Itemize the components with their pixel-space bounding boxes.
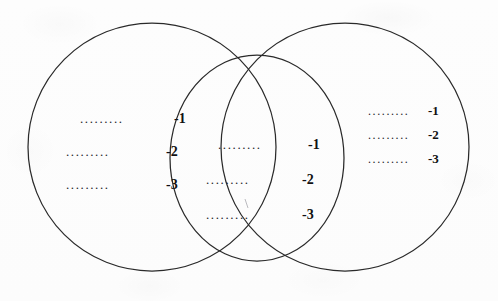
entry-number: -2	[302, 173, 314, 187]
list-item[interactable]: ......... -3	[206, 208, 320, 243]
list-item[interactable]: ......... -2	[368, 128, 439, 152]
entry-number: -3	[166, 178, 178, 192]
list-item[interactable]: ......... -2	[66, 145, 186, 178]
right-set-entries: ......... -1 ......... -2 ......... -3	[368, 104, 439, 176]
entry-number: -1	[308, 138, 320, 152]
dotted-leader: .........	[218, 138, 290, 151]
dotted-leader: .........	[368, 105, 426, 117]
dotted-leader: .........	[66, 145, 144, 158]
entry-number: -3	[428, 152, 439, 165]
dotted-leader: .........	[368, 129, 426, 141]
entry-number: -1	[428, 104, 439, 117]
entry-number: -1	[174, 112, 186, 126]
intersection-set-entries: ......... -1 ......... -2 ......... -3	[206, 138, 320, 243]
entry-number: -2	[166, 145, 178, 159]
dotted-leader: .........	[80, 112, 158, 125]
dotted-leader: .........	[368, 153, 426, 165]
left-set-entries: ......... -1 ......... -2 ......... -3	[66, 112, 186, 211]
entry-number: -2	[428, 128, 439, 141]
dotted-leader: .........	[66, 178, 144, 191]
dotted-leader: .........	[206, 208, 278, 221]
list-item[interactable]: ......... -2	[206, 173, 320, 208]
list-item[interactable]: ......... -1	[66, 112, 186, 145]
list-item[interactable]: ......... -1	[206, 138, 320, 173]
list-item[interactable]: ......... -3	[368, 152, 439, 176]
dotted-leader: .........	[206, 173, 278, 186]
list-item[interactable]: ......... -1	[368, 104, 439, 128]
venn-diagram-page: ......... -1 ......... -2 ......... -3 .…	[0, 0, 498, 301]
list-item[interactable]: ......... -3	[66, 178, 186, 211]
entry-number: -3	[302, 208, 314, 222]
